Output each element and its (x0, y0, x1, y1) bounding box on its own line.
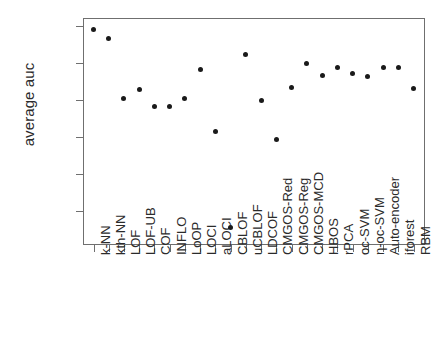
data-point (335, 65, 340, 70)
data-point (182, 96, 187, 101)
data-point (121, 96, 126, 101)
scatter-plot-figure: average auc 0.850.800.750.700.650.60 k-N… (0, 0, 443, 351)
data-point (106, 36, 111, 41)
data-point (91, 27, 96, 32)
data-point (137, 87, 142, 92)
data-point (289, 85, 294, 90)
data-point (396, 65, 401, 70)
data-point (365, 74, 370, 79)
data-points-layer (0, 0, 443, 351)
data-point (320, 73, 325, 78)
data-point (381, 65, 386, 70)
data-point (411, 86, 416, 91)
data-point (228, 225, 233, 230)
data-point (167, 104, 172, 109)
data-point (213, 129, 218, 134)
data-point (350, 71, 355, 76)
data-point (304, 61, 309, 66)
data-point (198, 67, 203, 72)
data-point (259, 98, 264, 103)
data-point (152, 104, 157, 109)
data-point (243, 52, 248, 57)
data-point (274, 137, 279, 142)
